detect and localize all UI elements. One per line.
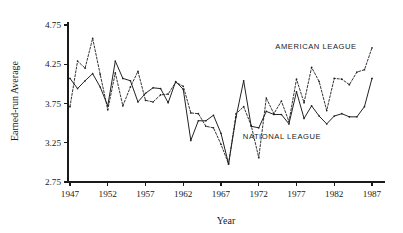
x-tick-label: 1952 (99, 189, 118, 199)
data-point (258, 127, 260, 129)
y-tick-label: 4.75 (45, 20, 61, 30)
data-point (84, 80, 86, 82)
data-point (198, 113, 200, 115)
data-point (303, 102, 305, 104)
data-point (182, 89, 184, 91)
series-line-national-league (70, 61, 372, 164)
x-axis-title: Year (217, 215, 236, 226)
data-point (273, 114, 275, 116)
data-point (145, 100, 147, 102)
y-tick-label: 4.25 (45, 59, 61, 69)
data-point (371, 47, 373, 49)
data-point (77, 88, 79, 90)
data-point (99, 74, 101, 76)
data-point (114, 72, 116, 74)
data-point (318, 115, 320, 117)
data-point (84, 67, 86, 69)
data-point (107, 105, 109, 107)
x-axis: 194719521957196219671972197719821987 (61, 182, 385, 199)
data-point (167, 93, 169, 95)
national-league-label: NATIONAL LEAGUE (243, 132, 321, 141)
data-point (235, 116, 237, 118)
data-point (137, 101, 139, 103)
data-point (243, 106, 245, 108)
data-point (130, 80, 132, 82)
data-point (77, 60, 79, 62)
data-point (122, 78, 124, 80)
data-point (364, 69, 366, 71)
data-point (152, 101, 154, 103)
data-point (333, 115, 335, 117)
data-point (281, 100, 283, 102)
data-point (311, 67, 313, 69)
x-tick-label: 1967 (212, 189, 231, 199)
data-point (228, 163, 230, 165)
x-tick-label: 1962 (174, 189, 193, 199)
data-point (92, 37, 94, 39)
data-point (205, 120, 207, 122)
data-point (288, 123, 290, 125)
x-tick-label: 1957 (136, 189, 155, 199)
data-point (130, 86, 132, 88)
data-point (69, 106, 71, 108)
data-point (356, 71, 358, 73)
data-point (152, 87, 154, 89)
data-point (145, 92, 147, 94)
data-point (190, 140, 192, 142)
data-point (258, 157, 260, 159)
american-league-label: AMERICAN LEAGUE (275, 42, 356, 51)
x-tick-label: 1982 (325, 189, 344, 199)
data-point (160, 94, 162, 96)
data-point (137, 70, 139, 72)
data-point (190, 112, 192, 114)
data-point (349, 84, 351, 86)
data-point (296, 91, 298, 93)
data-point (114, 60, 116, 62)
y-tick-label: 3.25 (45, 138, 61, 148)
data-point (182, 85, 184, 87)
data-point (92, 73, 94, 75)
x-tick-label: 1987 (363, 189, 382, 199)
data-point (213, 114, 215, 116)
data-point (341, 113, 343, 115)
data-point (167, 102, 169, 104)
x-tick-label: 1972 (250, 189, 269, 199)
data-point (220, 132, 222, 134)
data-point (265, 111, 267, 113)
data-point (205, 125, 207, 127)
data-point (326, 110, 328, 112)
data-point (349, 116, 351, 118)
data-point (220, 143, 222, 145)
data-point (198, 120, 200, 122)
data-point (341, 78, 343, 80)
data-point (364, 106, 366, 108)
era-line-chart: 2.753.253.754.254.75 1947195219571962196… (0, 0, 403, 233)
data-point (107, 109, 109, 111)
y-tick-label: 2.75 (45, 177, 61, 187)
data-point (318, 81, 320, 83)
chart-figure: 2.753.253.754.254.75 1947195219571962196… (0, 0, 403, 233)
data-point (213, 127, 215, 129)
data-point (122, 105, 124, 107)
data-point (281, 114, 283, 116)
data-point (160, 88, 162, 90)
data-point (303, 118, 305, 120)
data-point (265, 97, 267, 99)
x-tick-label: 1977 (287, 189, 306, 199)
data-point (371, 78, 373, 80)
y-axis-title: Earned-run Average (9, 60, 20, 141)
data-point (333, 78, 335, 80)
data-point (243, 80, 245, 82)
data-point (99, 86, 101, 88)
y-axis: 2.753.253.754.254.75 (45, 20, 68, 187)
data-point (356, 116, 358, 118)
data-point (296, 78, 298, 80)
data-point (250, 125, 252, 127)
data-point (326, 123, 328, 125)
x-tick-label: 1947 (61, 189, 80, 199)
data-point (175, 81, 177, 83)
y-tick-label: 3.75 (45, 99, 61, 109)
data-point (69, 78, 71, 80)
data-series-group (69, 37, 373, 164)
data-point (311, 105, 313, 107)
